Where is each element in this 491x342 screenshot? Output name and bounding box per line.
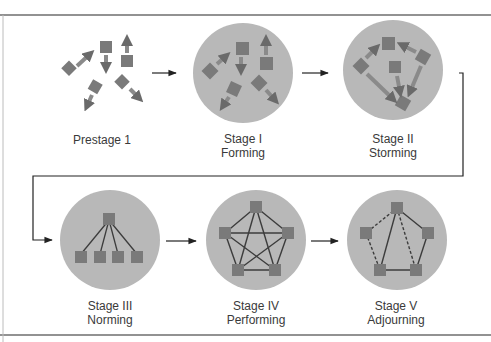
adjourning-subtitle: Adjourning — [341, 313, 451, 327]
performing-subtitle: Performing — [201, 313, 311, 327]
storming-title: Stage II — [338, 132, 448, 146]
forming-title: Stage I — [188, 132, 298, 146]
norming-circle — [60, 190, 160, 290]
forming-label: Stage I Forming — [188, 132, 298, 160]
prestage-group — [61, 40, 139, 106]
adjourning-group — [347, 190, 447, 290]
prestage-label: Prestage 1 — [47, 133, 157, 147]
adjourning-label: Stage V Adjourning — [341, 299, 451, 327]
storming-group — [343, 20, 443, 120]
performing-title: Stage IV — [201, 299, 311, 313]
storming-subtitle: Storming — [338, 146, 448, 160]
performing-group — [206, 190, 306, 290]
adjourning-title: Stage V — [341, 299, 451, 313]
performing-label: Stage IV Performing — [201, 299, 311, 327]
norming-group — [60, 190, 160, 290]
prestage-title: Prestage 1 — [47, 133, 157, 147]
group-development-diagram — [0, 0, 491, 342]
norming-title: Stage III — [55, 299, 165, 313]
forming-subtitle: Forming — [188, 146, 298, 160]
norming-subtitle: Norming — [55, 313, 165, 327]
storming-label: Stage II Storming — [338, 132, 448, 160]
norming-label: Stage III Norming — [55, 299, 165, 327]
forming-group — [193, 23, 293, 123]
